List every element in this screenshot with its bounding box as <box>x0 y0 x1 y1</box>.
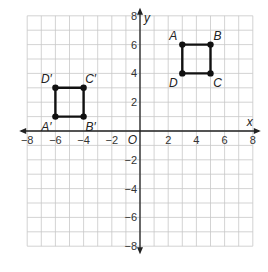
y-tick-label: −4 <box>124 183 137 195</box>
quadrilateral-abcd: ABCD <box>168 29 222 91</box>
vertex-label: C <box>213 76 222 90</box>
origin-label: O <box>128 133 137 147</box>
vertex-point <box>52 113 58 119</box>
y-tick-label: 2 <box>131 96 137 108</box>
vertex-label: D′ <box>41 72 53 86</box>
vertex-label: A′ <box>40 120 52 134</box>
quadrilateral-abcd: A′B′C′D′ <box>40 72 97 134</box>
y-axis-arrow-up-icon <box>137 8 143 15</box>
y-tick-label: −8 <box>124 240 137 252</box>
coordinate-plane: xy −8−6−4−224688642−2−4−6−8O ABCDA′B′C′D… <box>0 0 268 272</box>
y-tick-label: −6 <box>124 211 137 223</box>
x-tick-label: 6 <box>222 134 228 146</box>
x-tick-label: −6 <box>49 134 62 146</box>
y-tick-label: −2 <box>124 154 137 166</box>
y-axis-label: y <box>143 11 151 25</box>
vertex-label: C′ <box>85 72 97 86</box>
x-tick-label: 4 <box>193 134 199 146</box>
vertex-label: B <box>213 29 221 43</box>
vertex-label: D <box>169 76 178 90</box>
y-tick-label: 4 <box>131 67 137 79</box>
x-tick-label: −8 <box>21 134 34 146</box>
vertex-point <box>179 41 185 47</box>
vertex-point <box>179 70 185 76</box>
x-axis-label: x <box>246 115 254 129</box>
vertex-label: B′ <box>85 120 96 134</box>
vertex-point <box>52 85 58 91</box>
x-tick-label: 2 <box>165 134 171 146</box>
vertex-label: A <box>168 29 177 43</box>
x-tick-label: −4 <box>77 134 90 146</box>
x-tick-label: 8 <box>250 134 256 146</box>
y-tick-label: 6 <box>131 39 137 51</box>
y-axis-arrow-down-icon <box>137 247 143 254</box>
x-tick-label: −2 <box>106 134 119 146</box>
y-tick-label: 8 <box>131 10 137 22</box>
